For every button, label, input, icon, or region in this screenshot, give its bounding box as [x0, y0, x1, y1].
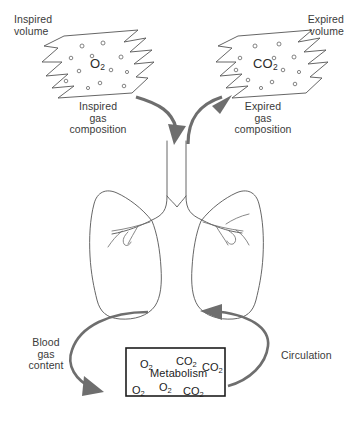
inspired-gas-formula-sub: 2: [100, 62, 105, 72]
metabolism-molecule-formula: O: [132, 384, 141, 396]
expired-gas-composition-label: Expired gas composition: [215, 101, 311, 136]
metabolism-molecule-formula: CO: [176, 355, 193, 367]
metabolism-molecule-formula: CO: [202, 361, 219, 373]
expired-gas-formula-sub: 2: [273, 62, 278, 72]
metabolism-label: Metabolism: [150, 367, 207, 379]
metabolism-molecule: CO2: [202, 361, 223, 373]
inspired-gas-formula-text: O: [90, 56, 100, 71]
inspired-gas-composition-label: Inspired gas composition: [50, 101, 146, 136]
expired-gas-formula-text: CO: [253, 56, 273, 71]
metabolism-molecule: O2: [132, 384, 145, 396]
inspired-volume-label: Inspired volume: [14, 14, 84, 37]
left-lung-outline: [90, 191, 162, 319]
expired-gas-formula: CO2: [253, 56, 278, 71]
trachea-outline: [112, 141, 242, 234]
expired-volume-label: Expired volume: [272, 14, 344, 37]
metabolism-molecule-sub: 2: [149, 363, 153, 372]
blood-gas-content-label: Blood gas content: [12, 337, 80, 372]
circulation-label: Circulation: [281, 350, 351, 362]
gas-exchange-diagram: Inspired volume Expired volume O2 CO2 In…: [0, 0, 354, 423]
right-lung-outline: [192, 191, 264, 319]
metabolism-molecule-sub: 2: [200, 390, 204, 399]
metabolism-molecule: O2: [140, 358, 153, 370]
metabolism-molecule-formula: CO: [183, 385, 200, 397]
metabolism-molecule: O2: [159, 381, 172, 393]
metabolism-molecule: CO2: [176, 355, 197, 367]
metabolism-molecule: CO2: [183, 385, 204, 397]
metabolism-molecule-sub: 2: [219, 366, 223, 375]
metabolism-molecule-formula: O: [159, 381, 168, 393]
inspired-gas-formula: O2: [90, 56, 105, 71]
metabolism-molecule-sub: 2: [141, 389, 145, 398]
metabolism-molecule-sub: 2: [168, 386, 172, 395]
metabolism-molecule-sub: 2: [193, 360, 197, 369]
metabolism-molecule-formula: O: [140, 358, 149, 370]
